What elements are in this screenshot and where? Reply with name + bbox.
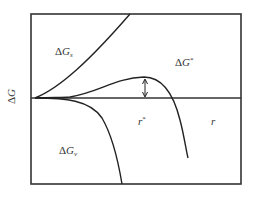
label-critical-radius: r* — [138, 116, 146, 127]
volume-energy-curve — [35, 98, 122, 184]
label-delta-g-star: ΔG* — [175, 57, 194, 68]
surface-energy-curve — [35, 14, 130, 98]
label-delta-gs: ΔGs — [55, 46, 73, 59]
label-delta-gv: ΔGv — [59, 145, 77, 158]
diagram-canvas — [0, 0, 270, 197]
total-energy-curve — [35, 77, 188, 158]
y-axis-label: ΔG — [5, 89, 17, 104]
label-x-axis-r: r — [211, 116, 215, 127]
